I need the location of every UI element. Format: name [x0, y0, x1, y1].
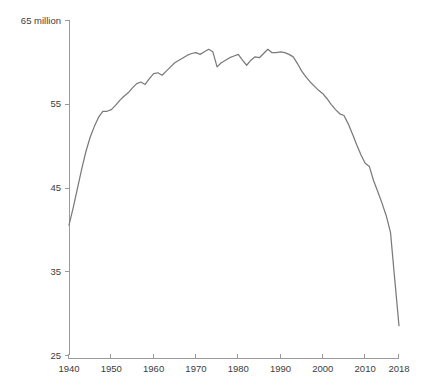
x-tick-label: 1980: [228, 363, 249, 374]
x-tick-label: 2018: [388, 363, 409, 374]
x-tick-label: 1950: [101, 363, 122, 374]
x-tick-label: 1970: [185, 363, 206, 374]
x-tick-label: 1960: [143, 363, 164, 374]
y-tick-label: 65 million: [21, 15, 61, 26]
x-tick-label: 1990: [270, 363, 291, 374]
y-tick-label: 55: [50, 98, 61, 109]
y-tick-label: 35: [50, 266, 61, 277]
x-axis-ticks: 194019501960197019801990200020102018: [58, 354, 409, 374]
x-tick-label: 2010: [355, 363, 376, 374]
x-tick-label: 2000: [312, 363, 333, 374]
data-series-line: [69, 49, 399, 325]
y-tick-label: 25: [50, 350, 61, 361]
y-axis-ticks: 2535455565 million: [21, 15, 69, 361]
x-tick-label: 1940: [58, 363, 79, 374]
chart-svg: 2535455565 million 194019501960197019801…: [0, 0, 421, 388]
line-chart: 2535455565 million 194019501960197019801…: [0, 0, 421, 388]
y-tick-label: 45: [50, 182, 61, 193]
